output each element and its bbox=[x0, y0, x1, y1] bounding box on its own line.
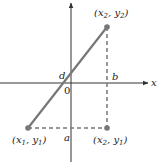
distance-diagram: x 0 d b a (x2, y2) (x1, y1) (x2, y1) bbox=[0, 0, 158, 162]
point-x2-y2 bbox=[104, 24, 110, 30]
label-d: d bbox=[59, 70, 65, 81]
distance-segment bbox=[28, 27, 107, 128]
label-b: b bbox=[112, 71, 118, 82]
label-a: a bbox=[64, 132, 70, 143]
point-x1-y1 bbox=[25, 125, 31, 131]
x-axis-label: x bbox=[151, 77, 157, 88]
label-point-x1-y1: (x1, y1) bbox=[12, 134, 47, 147]
label-point-x2-y2: (x2, y2) bbox=[94, 7, 129, 20]
origin-label: 0 bbox=[64, 85, 70, 96]
label-point-x2-y1: (x2, y1) bbox=[93, 134, 128, 147]
point-x2-y1 bbox=[104, 125, 110, 131]
